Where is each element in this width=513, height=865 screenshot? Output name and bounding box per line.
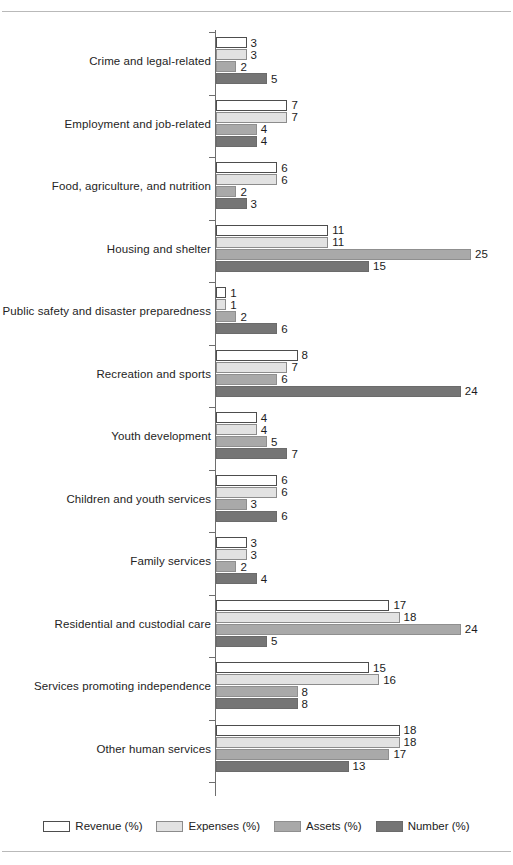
bar[interactable] [216,662,369,673]
bar-value-label: 4 [261,135,267,147]
bar[interactable] [216,237,328,248]
bar-value-label: 11 [332,236,344,248]
category-label: Housing and shelter [107,243,211,255]
bar-value-label: 18 [404,724,417,736]
bar[interactable] [216,737,400,748]
bar[interactable] [216,549,247,560]
bar-value-label: 1 [230,287,236,299]
category-label: Employment and job-related [65,118,211,130]
bar[interactable] [216,448,287,459]
bar-value-label: 3 [251,49,257,61]
bar-group: Crime and legal-related3325 [0,30,513,93]
bar[interactable] [216,100,287,111]
bar-value-label: 17 [393,599,406,611]
bar[interactable] [216,475,277,486]
legend-item[interactable]: Number (%) [376,820,470,832]
axis-tick [209,657,215,658]
bar[interactable] [216,374,277,385]
chart-legend: Revenue (%)Expenses (%)Assets (%)Number … [0,820,513,832]
legend-item[interactable]: Assets (%) [274,820,362,832]
bar[interactable] [216,49,247,60]
axis-tick [209,220,215,221]
bar[interactable] [216,112,287,123]
bar-value-label: 4 [261,412,267,424]
legend-swatch [156,821,183,832]
bar-group: Housing and shelter11112515 [0,218,513,281]
axis-tick [209,345,215,346]
bar[interactable] [216,412,257,423]
bar[interactable] [216,636,267,647]
bar[interactable] [216,287,226,298]
bar[interactable] [216,600,389,611]
axis-tick [209,532,215,533]
bar-value-label: 11 [332,224,344,236]
bar-value-label: 6 [281,373,287,385]
axis-tick [209,95,215,96]
bar[interactable] [216,499,247,510]
legend-swatch [43,821,70,832]
bar[interactable] [216,511,277,522]
bar-value-label: 8 [302,698,308,710]
axis-tick [209,32,215,33]
bar-group: Food, agriculture, and nutrition6623 [0,155,513,218]
bar[interactable] [216,136,257,147]
bar[interactable] [216,261,369,272]
bar[interactable] [216,73,267,84]
legend-swatch [274,821,301,832]
bar-value-label: 3 [251,549,257,561]
bar[interactable] [216,323,277,334]
bar[interactable] [216,436,267,447]
bar[interactable] [216,674,379,685]
bar[interactable] [216,487,277,498]
bar[interactable] [216,249,471,260]
category-label: Public safety and disaster preparedness [3,305,211,317]
bar[interactable] [216,61,236,72]
bar[interactable] [216,424,257,435]
bar-value-label: 7 [291,99,297,111]
bar-value-label: 3 [251,198,257,210]
legend-label: Assets (%) [306,820,362,832]
bar[interactable] [216,573,257,584]
bar-value-label: 6 [281,162,287,174]
bar[interactable] [216,624,461,635]
bar-value-label: 15 [373,662,386,674]
bar-group: Residential and custodial care1718245 [0,593,513,656]
category-label: Food, agriculture, and nutrition [52,180,211,192]
bar[interactable] [216,725,400,736]
bar-value-label: 5 [271,436,277,448]
bar[interactable] [216,162,277,173]
bar[interactable] [216,225,328,236]
bar[interactable] [216,37,247,48]
bar[interactable] [216,749,389,760]
bar[interactable] [216,612,400,623]
bar[interactable] [216,350,298,361]
category-label: Services promoting independence [34,680,211,692]
bar-value-label: 6 [281,474,287,486]
legend-item[interactable]: Expenses (%) [156,820,260,832]
bar[interactable] [216,311,236,322]
bar[interactable] [216,362,287,373]
bar[interactable] [216,686,298,697]
bar[interactable] [216,761,349,772]
bar[interactable] [216,561,236,572]
bar-value-label: 24 [465,623,478,635]
legend-item[interactable]: Revenue (%) [43,820,142,832]
bar[interactable] [216,186,236,197]
category-label: Crime and legal-related [89,55,211,67]
category-label: Family services [130,555,211,567]
bar-value-label: 2 [240,561,246,573]
bar[interactable] [216,537,247,548]
bar[interactable] [216,124,257,135]
bar[interactable] [216,698,298,709]
bar[interactable] [216,299,226,310]
legend-label: Revenue (%) [75,820,142,832]
bar[interactable] [216,198,247,209]
bar-value-label: 4 [261,573,267,585]
bar[interactable] [216,386,461,397]
bar-group: Recreation and sports87624 [0,343,513,406]
bar-group: Children and youth services6636 [0,468,513,531]
category-label: Youth development [111,430,211,442]
bar-value-label: 13 [353,760,366,772]
bar[interactable] [216,174,277,185]
axis-tick [209,157,215,158]
